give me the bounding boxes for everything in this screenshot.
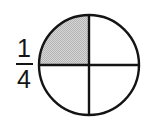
fraction-denominator: 4 — [17, 67, 31, 92]
fraction-circle-svg — [36, 6, 144, 124]
fraction-numerator: 1 — [17, 36, 31, 61]
fraction-circle-diagram — [36, 6, 144, 124]
fraction-label: 1 4 — [9, 36, 39, 92]
fraction-figure: 1 4 — [0, 0, 151, 128]
